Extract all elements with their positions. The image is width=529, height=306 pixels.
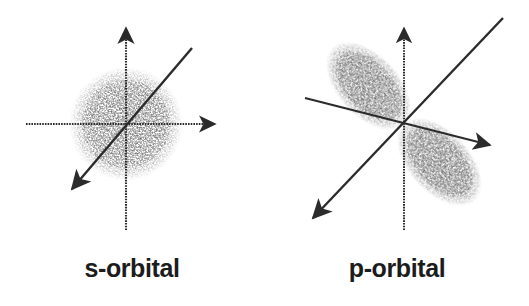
s-orbital-label: s-orbital (0, 253, 264, 283)
orbital-diagram-page: s-orbital (0, 0, 529, 306)
p-orbital-label: p-orbital (265, 253, 529, 283)
p-orbital-figure: p-orbital (265, 0, 529, 306)
s-orbital-figure: s-orbital (0, 0, 264, 306)
